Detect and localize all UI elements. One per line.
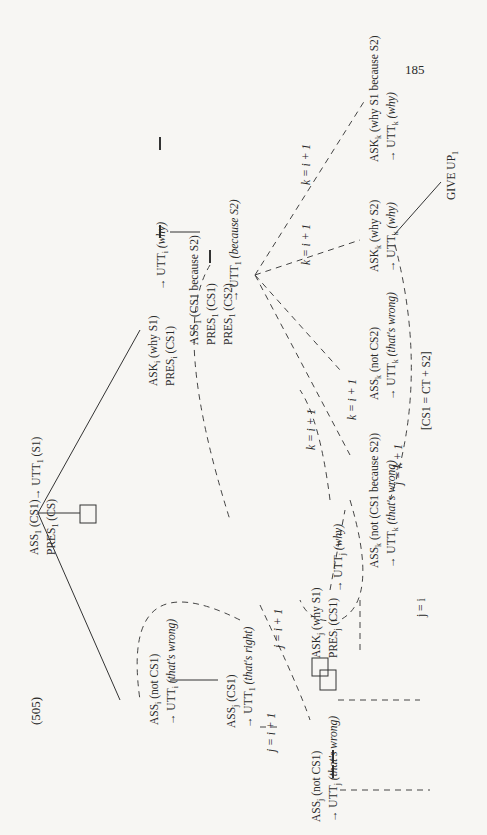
- give-up-node: GIVE UP1: [445, 151, 462, 200]
- example-number: (505): [30, 697, 42, 725]
- edge-label-k1: k = i + 1: [300, 144, 312, 185]
- ask-i-node: ASKi (why S1) PRESi (CS1): [147, 315, 181, 386]
- askk-s1-node: ASKk (why S1 because S2) → UTTk (why): [368, 35, 402, 162]
- edge-label-j-up: j = i + 1: [272, 609, 284, 648]
- ask-j-utt: → UTTj (why): [332, 524, 349, 592]
- edge-label-j-k1: j = k + 1: [392, 444, 404, 485]
- ask-i-utt: → UTTi (why): [155, 222, 172, 290]
- assk-cs2-node: ASSk (not CS2) → UTTk (that's wrong): [368, 292, 402, 400]
- root-node: ASS1 (CS1) PRES1 (CS): [28, 499, 62, 555]
- edge-label-j-eq-i: j = i: [415, 598, 427, 617]
- edge-label-k2: k = i + 1: [300, 224, 312, 265]
- page-number: 185: [405, 62, 425, 78]
- diagram-page: 185 (505) ASS1 (CS1) PRES1 (CS) → UTT1 (…: [0, 0, 487, 835]
- edge-label-k4: k = i + 1: [305, 409, 317, 450]
- ass1-because-utt: → UTT1 (because S2): [228, 199, 245, 302]
- ass-j-cs1-node: ASSj (CS1) → UTT1 (that's right): [225, 627, 259, 728]
- root-utt: → UTT1 (S1): [30, 437, 47, 500]
- askk-s2-node: ASKk (why S2) → UTTk (why): [368, 200, 402, 272]
- edge-label-k3: k = i + 1: [346, 379, 358, 420]
- ass-i-not-node: ASSi (not CS1) → UTTi (that's wrong): [148, 619, 182, 725]
- edge-label-j-down: j = i + 1: [265, 713, 277, 752]
- ass-j-not-node: ASSj (not CS1) → UTTj (that's wrong): [310, 716, 344, 822]
- ask-j-node: ASKj (why S1) PRESj (CS1): [310, 587, 344, 658]
- edge-label-cs1: [CS1 = CT + S2]: [420, 351, 432, 430]
